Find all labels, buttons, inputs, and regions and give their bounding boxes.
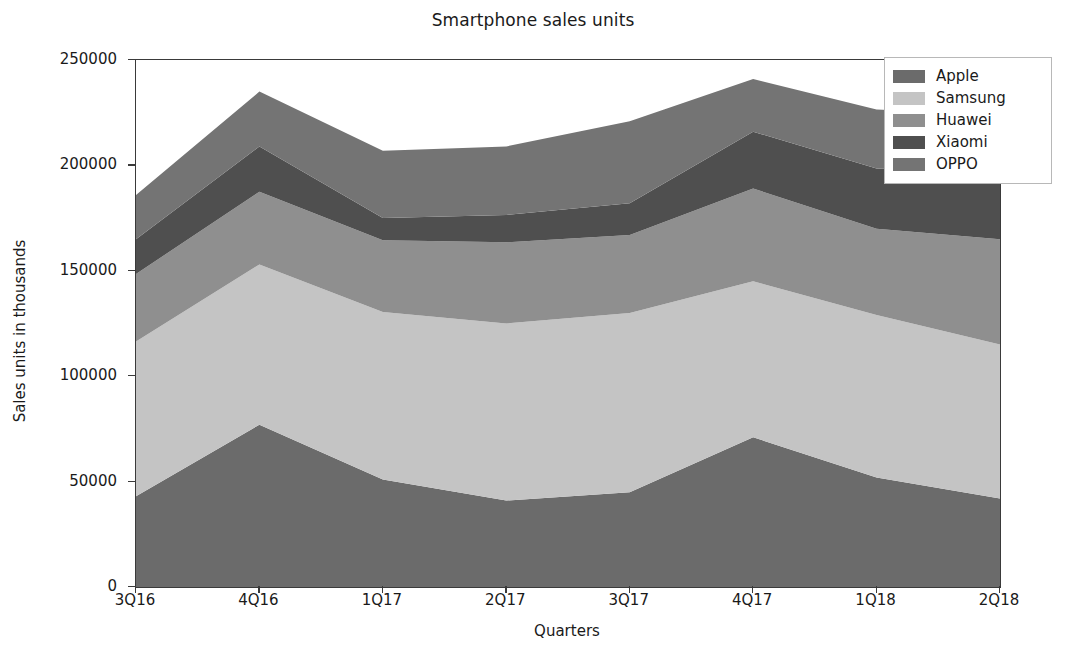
legend-swatch-oppo [893, 158, 925, 171]
legend-swatch-apple [893, 70, 925, 83]
x-tick-mark [505, 586, 506, 593]
x-tick-mark [999, 586, 1000, 593]
y-tick-mark [128, 481, 135, 482]
legend-label: Xiaomi [936, 135, 988, 150]
legend-swatch-huawei [893, 114, 925, 127]
x-tick-mark [752, 586, 753, 593]
legend-item-xiaomi[interactable]: Xiaomi [893, 131, 1043, 153]
legend-item-huawei[interactable]: Huawei [893, 109, 1043, 131]
legend-label: OPPO [936, 157, 978, 172]
legend-swatch-samsung [893, 92, 925, 105]
x-axis-label: Quarters [135, 622, 999, 640]
y-tick-mark [128, 59, 135, 60]
y-tick-label: 250000 [60, 50, 117, 68]
x-tick-label: 3Q17 [608, 591, 648, 609]
x-tick-mark [629, 586, 630, 593]
legend-item-oppo[interactable]: OPPO [893, 153, 1043, 175]
stacked-area-svg [136, 60, 1000, 587]
x-tick-label: 2Q17 [485, 591, 525, 609]
x-tick-mark [258, 586, 259, 593]
x-tick-label: 3Q16 [115, 591, 155, 609]
y-tick-mark [128, 164, 135, 165]
y-tick-mark [128, 270, 135, 271]
legend-label: Samsung [936, 91, 1006, 106]
y-tick-label: 50000 [69, 472, 117, 490]
plot-area [135, 59, 1001, 588]
y-tick-label: 200000 [60, 155, 117, 173]
x-tick-label: 2Q18 [979, 591, 1019, 609]
legend-item-apple[interactable]: Apple [893, 65, 1043, 87]
x-tick-label: 4Q17 [732, 591, 772, 609]
x-tick-label: 1Q17 [362, 591, 402, 609]
y-axis-label: Sales units in thousands [11, 71, 29, 591]
x-tick-mark [382, 586, 383, 593]
y-axis: Sales units in thousands 050000100000150… [0, 0, 135, 662]
chart-legend: AppleSamsungHuaweiXiaomiOPPO [884, 57, 1052, 184]
legend-swatch-xiaomi [893, 136, 925, 149]
x-axis: 3Q164Q161Q172Q173Q174Q171Q182Q18 [0, 591, 1066, 621]
legend-label: Huawei [936, 113, 992, 128]
y-tick-label: 150000 [60, 261, 117, 279]
x-tick-mark [135, 586, 136, 593]
chart-root: Smartphone sales units Sales units in th… [0, 0, 1066, 662]
chart-title: Smartphone sales units [0, 10, 1066, 30]
y-tick-mark [128, 586, 135, 587]
x-tick-label: 1Q18 [855, 591, 895, 609]
y-tick-mark [128, 375, 135, 376]
x-tick-mark [876, 586, 877, 593]
legend-label: Apple [936, 69, 979, 84]
plot-clip [136, 60, 1000, 587]
y-tick-label: 100000 [60, 366, 117, 384]
x-tick-label: 4Q16 [238, 591, 278, 609]
legend-item-samsung[interactable]: Samsung [893, 87, 1043, 109]
